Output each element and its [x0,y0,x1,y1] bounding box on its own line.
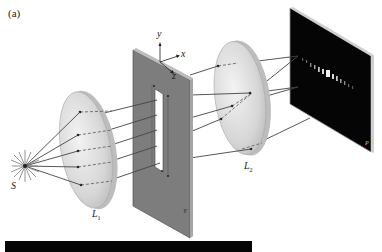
diagram-canvas [0,0,382,252]
single-slit-diffraction-diagram: (a) y x z S L1 L2 Y P [0,0,382,252]
screen-label: P [365,140,369,146]
lens1-label: L1 [92,208,101,221]
z-axis-label: z [172,70,176,81]
x-axis-label: x [181,48,185,59]
source-label: S [11,180,16,191]
lens1-subscript: 1 [98,215,101,221]
lens-l2 [207,37,278,159]
light-source-icon [11,150,39,182]
slit-plate-label: Y [183,207,187,215]
bottom-black-bar [5,241,252,252]
lens2-label: L2 [244,160,253,173]
lens-l1 [51,86,126,213]
lens2-subscript: 2 [250,167,253,173]
panel-label: (a) [8,7,20,19]
observation-screen [290,7,374,153]
y-axis-label: y [157,28,161,39]
